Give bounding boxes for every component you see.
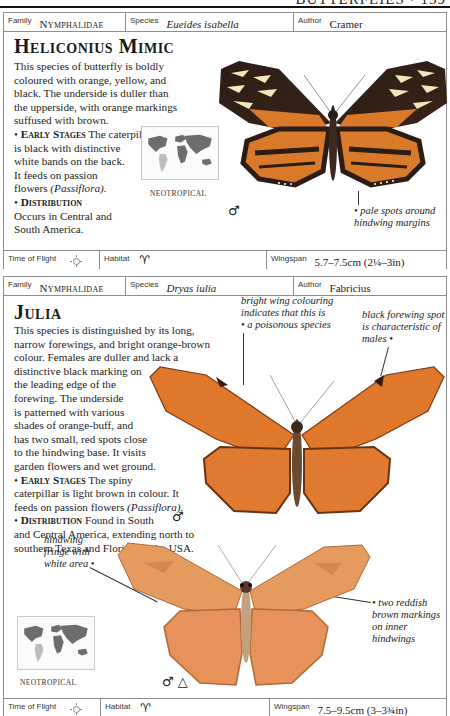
world-map-icon (142, 127, 218, 179)
annotation-text: males (362, 333, 387, 344)
author-value: Fabricius (330, 282, 371, 294)
world-distribution-map (17, 616, 95, 670)
annotation-pale-spots: • pale spots around hindwing margins (354, 205, 435, 229)
early-stages-heading: Early Stages (21, 128, 86, 140)
early-stages-text: feeds on passion flowers (14, 501, 127, 513)
taxonomy-row: Family Nymphalidae Species Eueides isabe… (4, 13, 446, 32)
region-label: NEOTROPICAL (20, 678, 76, 687)
annotation-text: white area (44, 558, 88, 569)
male-symbol-and-poison-marker: ♂ △ (162, 674, 188, 689)
annotation-line: white area • (44, 558, 95, 570)
habitat-label: Habitat (104, 254, 129, 263)
annotation-text: fringe with (44, 546, 95, 558)
annotation-bright-colouring: bright wing colouring indicates that thi… (241, 295, 333, 331)
early-stages-text: The spiny (86, 474, 133, 486)
species-value: Eueides isabella (166, 18, 238, 30)
author-cell: Author Fabricius (294, 277, 446, 295)
family-value: Nymphalidae (40, 18, 104, 30)
annotation-text: pale spots around (360, 205, 435, 216)
palm-tree-icon: ♈ (140, 701, 151, 715)
distribution-text: South America. (14, 223, 189, 237)
habitat-cell: Habitat ♈ (100, 251, 267, 269)
family-label: Family (8, 16, 32, 25)
annotation-text: bright wing colouring (241, 295, 333, 307)
species-cell: Species Eueides isabella (126, 13, 294, 31)
species-label: Species (130, 16, 158, 25)
author-label: Author (298, 16, 322, 25)
food-plant: (Passiflora). (50, 182, 106, 194)
butterfly-illustration-eueides-isabella (219, 43, 447, 191)
species-entry-julia: Family Nymphalidae Species Dryas iulia A… (3, 276, 447, 716)
attributes-row: Time of Flight Habitat ♈ Wingspan 7.5–9.… (4, 698, 446, 716)
annotation-line: males • (362, 333, 444, 345)
distribution-text: Occurs in Central and (14, 210, 189, 224)
annotation-leader (358, 191, 359, 205)
species-cell: Species Dryas iulia (126, 277, 294, 295)
world-distribution-map (141, 126, 219, 180)
early-stages-text: flowers (14, 182, 50, 194)
annotation-line: • pale spots around (354, 205, 435, 217)
distribution-heading: Distribution (21, 514, 82, 526)
author-value: Cramer (330, 18, 363, 30)
family-cell: Family Nymphalidae (4, 277, 126, 295)
wingspan-cell: Wingspan 7.5–9.5cm (3–3¾in) (270, 699, 446, 716)
page-header: BUTTERFLIES • 159 (0, 0, 450, 8)
description-line: coloured with orange, yellow, and (14, 74, 189, 88)
annotation-text: hindwing (44, 534, 95, 546)
world-map-icon (18, 617, 94, 669)
time-of-flight-cell: Time of Flight (4, 251, 100, 269)
author-label: Author (298, 280, 322, 289)
author-cell: Author Cramer (294, 13, 446, 31)
habitat-cell: Habitat ♈ (101, 699, 270, 716)
description-line: the upperside, with orange markings (14, 101, 189, 115)
description-line: narrow forewings, and bright orange-brow… (14, 338, 224, 352)
male-symbol: ♂ (228, 203, 240, 218)
annotation-text: indicates that this is (241, 307, 333, 319)
species-label: Species (130, 280, 158, 289)
family-cell: Family Nymphalidae (4, 13, 126, 31)
distribution-heading: Distribution (21, 196, 82, 208)
description-line: This species of butterfly is boldly (14, 60, 189, 74)
attributes-row: Time of Flight Habitat ♈ Wingspan 5.7–7.… (4, 250, 446, 269)
annotation-text: hindwing margins (354, 217, 435, 229)
sun-icon (70, 255, 82, 267)
time-of-flight-label: Time of Flight (8, 254, 56, 263)
time-of-flight-cell: Time of Flight (4, 699, 101, 716)
butterfly-illustration-julia-underside (104, 523, 384, 693)
region-label: NEOTROPICAL (150, 189, 206, 198)
species-title: Heliconius Mimic (14, 35, 174, 58)
family-value: Nymphalidae (40, 282, 104, 294)
wingspan-value: 7.5–9.5cm (3–3¾in) (318, 704, 408, 716)
taxonomy-row: Family Nymphalidae Species Dryas iulia A… (4, 277, 446, 296)
butterfly-illustration-julia-upperside (146, 363, 446, 513)
species-value: Dryas iulia (166, 282, 216, 294)
sun-icon (70, 703, 82, 715)
species-entry-heliconius-mimic: Family Nymphalidae Species Eueides isabe… (3, 12, 447, 269)
palm-tree-icon: ♈ (139, 253, 150, 267)
annotation-text: two reddish (378, 597, 427, 608)
early-stages-heading: Early Stages (21, 474, 86, 486)
annotation-text: is characteristic of (362, 321, 444, 333)
wingspan-label: Wingspan (271, 254, 307, 263)
header-rule (0, 6, 450, 8)
wingspan-cell: Wingspan 5.7–7.5cm (2¼–3in) (267, 251, 446, 269)
time-of-flight-label: Time of Flight (8, 702, 56, 711)
male-symbol: ♂ (172, 509, 184, 524)
family-label: Family (8, 280, 32, 289)
annotation-black-forewing-spot: black forewing spot is characteristic of… (362, 309, 444, 345)
annotation-hindwing-fringe: hindwing fringe with white area • (44, 534, 95, 570)
description-line: black. The underside is duller than (14, 87, 189, 101)
wingspan-label: Wingspan (274, 702, 310, 711)
habitat-label: Habitat (105, 702, 130, 711)
annotation-text: black forewing spot (362, 309, 444, 321)
wingspan-value: 5.7–7.5cm (2¼–3in) (315, 256, 405, 268)
species-title: Julia (14, 301, 62, 324)
description-line: This species is distinguished by its lon… (14, 324, 224, 338)
annotation-text: a poisonous species (247, 319, 330, 330)
annotation-line: • a poisonous species (241, 319, 333, 331)
